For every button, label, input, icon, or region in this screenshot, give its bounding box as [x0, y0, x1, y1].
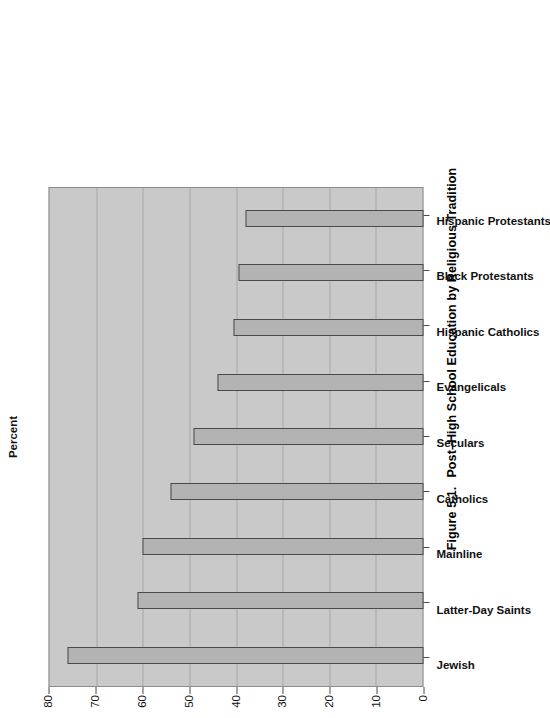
- value-axis-tick: [376, 687, 377, 694]
- figure-caption: Figure 5.1.Post–High School Education by…: [444, 0, 458, 718]
- value-axis-tick: [423, 687, 424, 694]
- value-axis-tick: [329, 687, 330, 694]
- value-axis-tick-label: 10: [370, 695, 381, 718]
- bar-slot: [48, 355, 423, 410]
- figure-caption-number: Figure 5.1.: [444, 487, 458, 551]
- value-axis-title: Percent: [6, 187, 18, 687]
- bar[interactable]: [245, 210, 423, 227]
- bar[interactable]: [238, 264, 423, 281]
- bar-slot: [48, 574, 423, 629]
- bar[interactable]: [137, 593, 423, 610]
- bar[interactable]: [67, 647, 423, 664]
- bar[interactable]: [193, 428, 423, 445]
- value-axis-tick: [95, 687, 96, 694]
- value-axis-tick: [282, 687, 283, 694]
- value-axis-tick-label: 50: [183, 695, 194, 718]
- bar-slot: [48, 628, 423, 683]
- value-axis-tick-label: 40: [230, 695, 241, 718]
- value-axis-tick: [142, 687, 143, 694]
- value-axis-tick: [189, 687, 190, 694]
- bar[interactable]: [217, 374, 423, 391]
- value-axis-tick-label: 0: [417, 695, 428, 718]
- value-axis-tick: [48, 687, 49, 694]
- bar-slot: [48, 191, 423, 246]
- category-axis-label: Seculars: [436, 437, 484, 449]
- bar-slot: [48, 464, 423, 519]
- bar-slot: [48, 300, 423, 355]
- value-axis-tick-label: 80: [42, 695, 53, 718]
- bar-slot: [48, 246, 423, 301]
- bar[interactable]: [170, 483, 423, 500]
- bar[interactable]: [233, 319, 423, 336]
- chart-area: 01020304050607080: [48, 187, 423, 687]
- category-axis-label: Mainline: [436, 548, 482, 560]
- bar-slot: [48, 410, 423, 465]
- value-axis-tick-label: 30: [276, 695, 287, 718]
- bar-series: [48, 187, 423, 687]
- value-axis-tick-label: 20: [323, 695, 334, 718]
- bar-slot: [48, 519, 423, 574]
- value-axis-tick: [236, 687, 237, 694]
- bar[interactable]: [142, 538, 423, 555]
- value-axis-tick-label: 70: [89, 695, 100, 718]
- value-axis-tick-label: 60: [136, 695, 147, 718]
- figure-caption-text: Post–High School Education by Religious …: [444, 168, 458, 478]
